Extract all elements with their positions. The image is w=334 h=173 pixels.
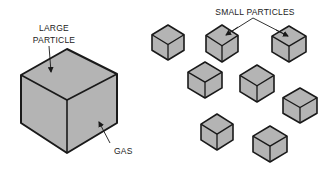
small-particle-cube xyxy=(152,25,184,60)
small-particle-cube xyxy=(272,26,306,62)
large-particle-label-line2: PARTICLE xyxy=(33,35,76,45)
particle-size-diagram: LARGE PARTICLE GAS SMALL PARTICLES xyxy=(0,0,334,173)
small-particle-cube xyxy=(253,126,287,162)
small-particle-cube xyxy=(240,65,274,102)
gas-label: GAS xyxy=(114,146,133,156)
diagram-canvas: LARGE PARTICLE GAS SMALL PARTICLES xyxy=(0,0,334,173)
small-particle-cube xyxy=(188,62,222,98)
large-particle-cube xyxy=(21,49,117,153)
large-particle-label-line1: LARGE xyxy=(39,23,69,33)
small-particles-label: SMALL PARTICLES xyxy=(215,7,295,17)
small-particle-cube xyxy=(283,88,317,123)
small-particle-cube xyxy=(201,114,233,150)
small-particles-group xyxy=(152,25,317,162)
